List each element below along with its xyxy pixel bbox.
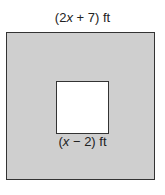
outer-side-label: (2x + 7) ft — [0, 10, 165, 25]
inner-square — [56, 81, 109, 134]
inner-side-label: (x − 2) ft — [0, 134, 165, 149]
label-part: + 7) ft — [73, 10, 110, 25]
label-part: (2 — [55, 10, 67, 25]
label-part: − 2) ft — [69, 134, 106, 149]
